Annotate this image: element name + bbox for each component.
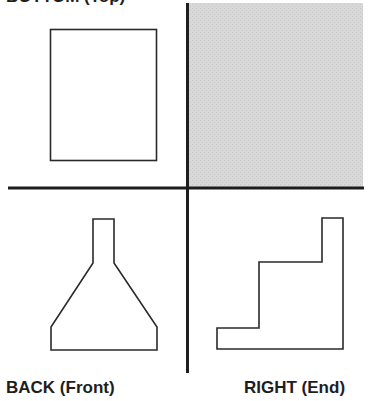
top-view-rectangle <box>51 30 157 161</box>
front-view-label: BACK (Front) <box>6 379 115 396</box>
end-view-label: RIGHT (End) <box>244 379 345 396</box>
front-view-flask-shape <box>51 219 157 350</box>
end-view-stair-shape <box>217 218 343 349</box>
shaded-quadrant <box>189 3 363 188</box>
orthographic-views-diagram <box>0 0 370 401</box>
